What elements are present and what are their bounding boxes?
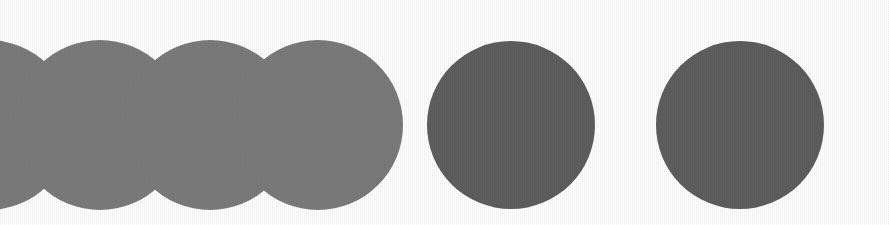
- circle-3: [233, 40, 403, 210]
- circle-4: [427, 41, 595, 209]
- circles-figure-svg: Overlapping circles diagram A horizontal…: [0, 0, 889, 225]
- circle-5: [656, 41, 824, 209]
- overlapping-circle-group: [0, 40, 403, 210]
- figure-canvas: Overlapping circles diagram A horizontal…: [0, 0, 889, 225]
